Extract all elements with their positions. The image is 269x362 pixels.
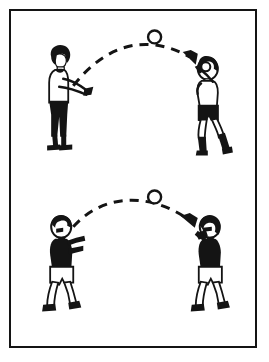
- lower-panel-scene: [11, 179, 255, 347]
- thrower-top-pants: [49, 101, 68, 137]
- ball-top: [148, 30, 161, 43]
- thrower-bottom-leg-left: [47, 281, 58, 305]
- receiver-bottom-leg-right: [213, 281, 225, 304]
- upper-drill-panel: [11, 11, 255, 179]
- upper-panel-scene: [11, 11, 255, 179]
- ball-bottom: [148, 190, 161, 203]
- receiver-bottom-shirt: [199, 238, 221, 268]
- receiver-bottom-leg-left: [196, 281, 207, 305]
- arrowhead-bottom: [181, 212, 198, 227]
- thrower-bottom-shoe-left: [42, 303, 56, 311]
- thrower-top-shoe-left: [47, 145, 61, 151]
- receiver-top-shoe-left: [196, 151, 208, 156]
- receiver-top-sock-left: [198, 137, 207, 153]
- figure-receiver-bottom: [191, 215, 230, 311]
- figure-thrower-bottom: [42, 215, 85, 311]
- thrower-top-face: [55, 54, 66, 68]
- illustration-root: Two-panel drill illustration: ball tosse…: [0, 0, 269, 362]
- ball-path-arc-top: [73, 44, 189, 85]
- thrower-bottom-arms: [67, 235, 85, 245]
- thrower-top-shoe-right: [59, 145, 72, 151]
- thrower-top-legs-right: [61, 135, 66, 147]
- receiver-top-leg-left: [198, 120, 206, 139]
- arrowhead-top: [183, 50, 198, 65]
- thrower-bottom-leg-right: [64, 281, 76, 304]
- illustration-frame: [9, 9, 257, 348]
- lower-drill-panel: [11, 179, 255, 347]
- receiver-bottom-shoe-left: [191, 303, 205, 311]
- ball-path-arc-bottom: [73, 200, 187, 227]
- figure-receiver-top: [195, 56, 233, 156]
- thrower-top-legs: [52, 135, 58, 147]
- figure-thrower-top: [47, 45, 93, 151]
